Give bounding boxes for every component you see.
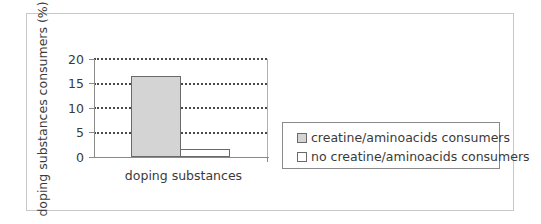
y-axis-label: doping substances consumers (%) xyxy=(35,1,50,216)
y-tick-label-15: 15 xyxy=(68,76,84,91)
x-tick-end xyxy=(267,157,268,162)
bar-no-creatine-consumers xyxy=(180,149,230,157)
y-tick-label-0: 0 xyxy=(76,150,84,165)
legend-label: creatine/aminoacids consumers xyxy=(311,130,510,145)
y-tick-label-10: 10 xyxy=(68,101,84,116)
legend-label: no creatine/aminoacids consumers xyxy=(311,149,530,164)
x-axis-label: doping substances xyxy=(94,168,273,183)
legend: creatine/aminoacids consumers no creatin… xyxy=(282,122,500,169)
legend-item-no-creatine: no creatine/aminoacids consumers xyxy=(297,149,530,164)
plot-right-border xyxy=(267,59,268,161)
y-axis xyxy=(94,59,95,158)
bar-creatine-consumers xyxy=(131,76,181,157)
gridline-20 xyxy=(94,58,267,60)
plot-area: 20 15 10 5 0 xyxy=(94,59,267,157)
y-tick-label-20: 20 xyxy=(68,52,84,67)
legend-swatch-gray-icon xyxy=(297,133,307,143)
legend-swatch-white-icon xyxy=(297,152,307,162)
y-tick-label-5: 5 xyxy=(76,125,84,140)
legend-item-creatine: creatine/aminoacids consumers xyxy=(297,130,510,145)
x-axis xyxy=(94,157,269,158)
